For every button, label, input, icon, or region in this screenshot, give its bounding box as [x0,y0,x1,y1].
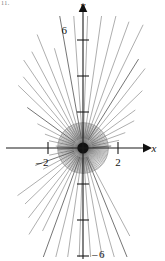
y-tick-label-6: 6 [62,24,68,36]
ray-segment [25,155,76,204]
x-tick-label-neg2-sign: – [35,156,42,168]
ray-segment [88,59,138,140]
y-tick-label-neg6: 6 [99,248,105,260]
slope-field-figure: 11. x y 6 – 6 – 2 2 [0,0,165,261]
x-tick-label-neg2: 2 [43,156,49,168]
figure-number-fragment: 11. [1,0,10,6]
direction-field-plot: x y 6 – 6 – 2 2 [0,0,165,261]
ray-segment [56,157,81,257]
ray-segment [90,91,142,142]
y-tick-label-neg6-group: – 6 [91,248,105,260]
x-tick-label-2: 2 [115,156,121,168]
y-axis-label: y [80,0,86,11]
ray-segment [88,157,130,237]
ray-segment [87,157,127,257]
x-axis-label: x [151,142,157,154]
x-tick-label-neg2-group: – 2 [35,156,49,168]
ray-segment [37,35,79,140]
y-tick-label-neg6-sign: – [91,248,98,260]
